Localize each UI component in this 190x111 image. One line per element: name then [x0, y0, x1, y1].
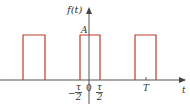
amplitude-label: A	[81, 26, 88, 35]
pulse-left	[23, 35, 45, 80]
x-axis-arrow-icon	[179, 77, 186, 83]
x-axis-label: t	[182, 86, 186, 95]
period-label: T	[143, 84, 149, 93]
pulse-right	[135, 35, 156, 80]
pulse-train-diagram	[0, 0, 190, 111]
pulse-center	[80, 35, 100, 80]
origin-label: 0	[86, 84, 92, 93]
right-edge-fraction: τ 2	[96, 83, 103, 102]
y-axis-label: f(t)	[67, 5, 83, 15]
left-edge-fraction: τ 2	[75, 83, 82, 102]
y-axis-arrow-icon	[86, 7, 92, 14]
left-edge-denominator: 2	[75, 93, 82, 102]
right-edge-denominator: 2	[96, 93, 103, 102]
